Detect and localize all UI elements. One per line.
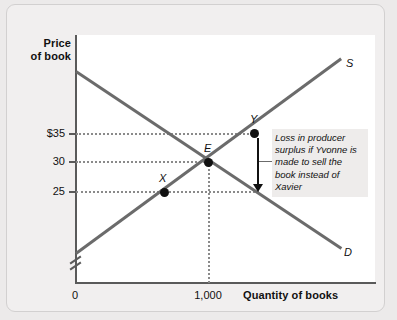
y-tick-label-25: 25 (17, 185, 65, 197)
data-point-x-label: X (159, 172, 166, 184)
data-point-y[interactable] (250, 129, 259, 138)
data-point-e-label: E (204, 142, 211, 154)
y-tick-label-30: 30 (17, 155, 65, 167)
y-axis-title: Price of book (9, 37, 71, 63)
y-tick-label-35: $35 (17, 127, 65, 139)
y-axis-break-icon (69, 259, 83, 275)
x-tick-label-zero: 0 (61, 289, 89, 301)
data-point-x[interactable] (160, 188, 169, 197)
x-tick-label-1000: 1,000 (176, 289, 240, 301)
y-axis-title-line1: Price (9, 37, 71, 50)
y-tick-mark-30 (69, 161, 76, 163)
surplus-loss-arrow-shaft (257, 138, 259, 186)
guide-line-price-30 (76, 161, 209, 163)
data-point-y-label: Y (250, 113, 257, 125)
surplus-loss-arrow-head-icon (253, 184, 263, 192)
annotation-leader-line (259, 161, 272, 162)
x-axis-line (75, 282, 376, 284)
demand-curve-label: D (344, 246, 352, 258)
data-point-e[interactable] (204, 158, 213, 167)
x-axis-title: Quantity of books (243, 289, 338, 301)
figure-container: Price of book Quantity of books $35 30 2… (6, 4, 385, 312)
supply-curve-label: S (346, 57, 353, 69)
y-tick-mark-35 (69, 133, 76, 135)
y-axis-title-line2: of book (9, 50, 71, 63)
y-tick-mark-25 (69, 191, 76, 193)
guide-line-quantity-1000 (208, 162, 210, 283)
annotation-producer-surplus-loss: Loss in producer surplus if Yvonne is ma… (272, 129, 368, 197)
